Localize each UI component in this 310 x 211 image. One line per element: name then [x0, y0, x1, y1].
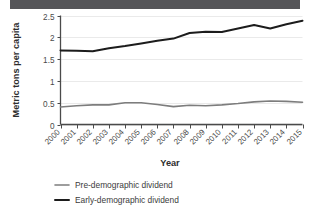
y-tick-label: 2 [50, 34, 55, 43]
x-tick-label: 2010 [204, 127, 223, 146]
x-tick-label: 2006 [139, 127, 158, 146]
y-axis-title: Metric tons per capita [11, 22, 21, 118]
legend-label-0: Pre-demographic dividend [75, 180, 173, 190]
y-tick-label: 2.5 [43, 13, 55, 22]
data-series-group [61, 21, 303, 107]
x-tick-label: 2009 [188, 127, 207, 146]
figure-container: 00.511.522.5 200020012002200320042005200… [0, 0, 310, 211]
y-tick-labels: 00.511.522.5 [43, 13, 55, 131]
gridlines [61, 17, 303, 126]
x-tick-label: 2007 [155, 127, 174, 146]
x-tick-label: 2014 [268, 127, 287, 146]
y-tick-label: 1.5 [43, 56, 55, 65]
x-tick-label: 2004 [107, 127, 126, 146]
x-tick-labels: 2000200120022003200420052006200720082009… [43, 127, 304, 146]
line-chart: 00.511.522.5 200020012002200320042005200… [0, 0, 310, 211]
x-tick-label: 2012 [236, 127, 255, 146]
legend-label-1: Early-demographic dividend [75, 195, 179, 205]
x-axis-title: Year [160, 158, 180, 168]
series-line-1 [61, 21, 303, 52]
x-tick-label: 2013 [252, 127, 271, 146]
x-tick-label: 2003 [91, 127, 110, 146]
y-tick-label: 0.5 [43, 100, 55, 109]
series-line-0 [61, 101, 303, 107]
x-tick-label: 2001 [59, 127, 78, 146]
x-tick-label: 2011 [220, 127, 239, 146]
chart-legend: Pre-demographic dividendEarly-demographi… [55, 180, 179, 205]
x-tick-label: 2000 [43, 127, 62, 146]
x-tick-label: 2002 [75, 127, 94, 146]
x-tick-label: 2008 [172, 127, 191, 146]
x-tick-label: 2005 [123, 127, 142, 146]
y-tick-label: 1 [50, 78, 55, 87]
x-tick-label: 2015 [285, 127, 304, 146]
